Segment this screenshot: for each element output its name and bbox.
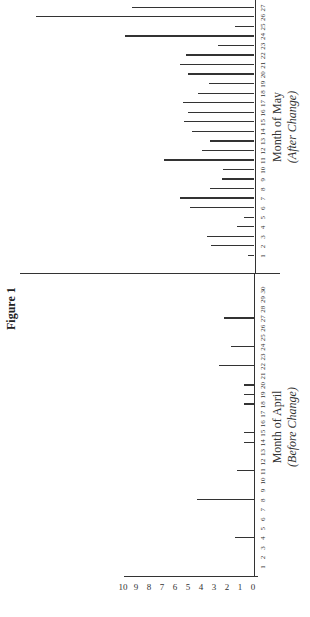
april-spike-day-8 <box>197 499 254 500</box>
may-spike-day-13 <box>210 140 254 141</box>
april-spike-day-22 <box>219 365 254 366</box>
april-day-label: 28 <box>259 304 267 314</box>
may-day-label: 11 <box>259 156 267 166</box>
y-tick-label: 5 <box>182 582 194 592</box>
april-title: Month of April <box>270 347 285 507</box>
y-tick-label: 6 <box>169 582 181 592</box>
may-spike-day-15 <box>184 121 254 122</box>
april-day-label: 11 <box>259 467 267 477</box>
april-day-label: 7 <box>259 505 267 515</box>
april-day-label: 8 <box>259 495 267 505</box>
may-spike-day-7 <box>180 197 254 198</box>
section-separator-line <box>20 273 280 274</box>
may-spike-day-19 <box>209 83 255 84</box>
may-day-label: 25 <box>259 22 267 32</box>
may-spike-day-12 <box>202 150 254 151</box>
may-spike-day-16 <box>188 112 254 113</box>
may-spike-day-22 <box>186 54 254 55</box>
may-day-label: 24 <box>259 32 267 42</box>
april-day-label: 14 <box>259 438 267 448</box>
april-day-label: 16 <box>259 419 267 429</box>
may-spike-day-24 <box>125 35 254 36</box>
may-spike-day-21 <box>180 64 254 65</box>
april-spike-day-24 <box>231 346 254 347</box>
may-spike-day-3 <box>207 236 254 237</box>
april-day-label: 27 <box>259 314 267 324</box>
may-spike-day-1 <box>248 255 255 256</box>
may-day-label: 17 <box>259 98 267 108</box>
april-day-label: 25 <box>259 333 267 343</box>
rotated-figure-page: Figure 1 1234567891011121314151617181920… <box>0 0 310 617</box>
may-day-label: 21 <box>259 60 267 70</box>
may-spike-day-14 <box>192 131 254 132</box>
april-day-label: 20 <box>259 381 267 391</box>
may-day-label: 13 <box>259 137 267 147</box>
may-spike-day-2 <box>211 245 254 246</box>
may-day-label: 7 <box>259 194 267 204</box>
april-day-label: 9 <box>259 486 267 496</box>
may-day-label: 12 <box>259 146 267 156</box>
y-axis-line <box>124 576 258 577</box>
april-day-label: 1 <box>259 562 267 572</box>
may-day-label: 10 <box>259 165 267 175</box>
y-tick-label: 8 <box>143 582 155 592</box>
y-tick-label: 4 <box>195 582 207 592</box>
april-day-label: 5 <box>259 524 267 534</box>
april-spike-day-15 <box>244 432 254 433</box>
april-day-label: 22 <box>259 361 267 371</box>
y-tick-label: 1 <box>234 582 246 592</box>
may-spike-day-26 <box>36 16 254 17</box>
may-day-label: 1 <box>259 251 267 261</box>
may-day-label: 9 <box>259 175 267 185</box>
may-day-label: 14 <box>259 127 267 137</box>
april-label: Month of April (Before Change) <box>270 347 300 507</box>
april-day-label: 13 <box>259 447 267 457</box>
may-spike-day-27 <box>132 7 254 8</box>
april-day-label: 23 <box>259 352 267 362</box>
may-spike-day-10 <box>223 169 254 170</box>
may-day-label: 2 <box>259 241 267 251</box>
april-spike-day-4 <box>235 537 255 538</box>
april-day-label: 21 <box>259 371 267 381</box>
may-spike-day-25 <box>235 26 255 27</box>
april-day-label: 15 <box>259 428 267 438</box>
april-day-label: 29 <box>259 295 267 305</box>
may-day-label: 5 <box>259 213 267 223</box>
may-day-label: 4 <box>259 222 267 232</box>
april-day-label: 24 <box>259 342 267 352</box>
may-spike-day-9 <box>222 178 255 179</box>
y-tick-label: 9 <box>130 582 142 592</box>
may-spike-day-20 <box>188 73 254 74</box>
april-day-label: 10 <box>259 476 267 486</box>
figure-title: Figure 1 <box>4 287 19 330</box>
april-day-label: 30 <box>259 285 267 295</box>
may-label: Month of May (After Change) <box>270 47 300 207</box>
may-day-label: 16 <box>259 108 267 118</box>
april-day-label: 3 <box>259 543 267 553</box>
april-spike-day-20 <box>244 384 254 385</box>
may-day-label: 26 <box>259 13 267 23</box>
may-day-label: 18 <box>259 89 267 99</box>
may-spike-day-8 <box>210 188 254 189</box>
april-spike-day-19 <box>244 394 254 395</box>
april-day-label: 12 <box>259 457 267 467</box>
april-day-label: 2 <box>259 552 267 562</box>
april-day-label: 6 <box>259 514 267 524</box>
may-baseline <box>255 0 256 274</box>
y-tick-label: 7 <box>156 582 168 592</box>
april-spike-day-11 <box>237 470 254 471</box>
may-day-label: 15 <box>259 117 267 127</box>
may-spike-day-4 <box>237 226 254 227</box>
may-day-label: 23 <box>259 41 267 51</box>
april-spike-day-14 <box>244 442 254 443</box>
may-spike-day-11 <box>164 159 254 160</box>
may-spike-day-5 <box>244 217 254 218</box>
may-spike-day-18 <box>198 93 254 94</box>
y-tick-label: 10 <box>117 582 129 592</box>
may-subtitle: (After Change) <box>285 47 300 207</box>
april-day-label: 4 <box>259 533 267 543</box>
april-day-label: 18 <box>259 400 267 410</box>
april-spike-day-18 <box>244 403 254 404</box>
may-spike-day-23 <box>218 45 254 46</box>
may-day-label: 8 <box>259 184 267 194</box>
